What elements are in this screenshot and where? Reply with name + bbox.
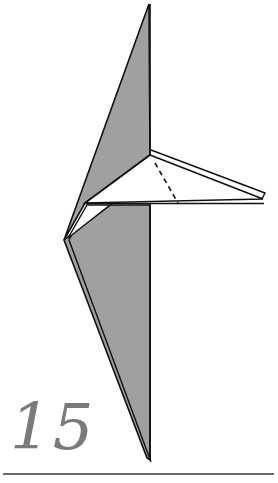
step-number: 15 [10,395,95,459]
divider-rule [3,473,274,475]
